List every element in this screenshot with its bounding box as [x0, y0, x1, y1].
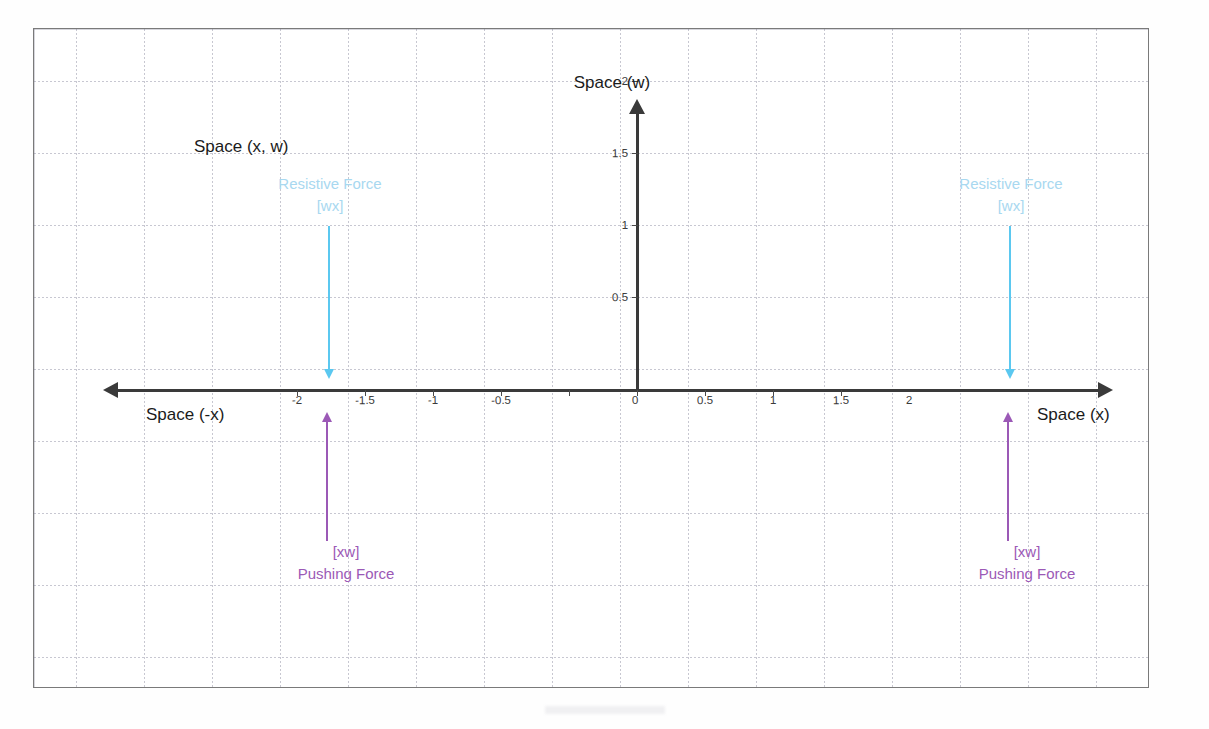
gridline-vertical: [212, 29, 213, 687]
gridline-vertical: [1096, 29, 1097, 687]
pushing-force-arrowhead-left: [322, 412, 332, 422]
chart-frame: -2 -1.5 -1 -0.5 0 0.5 1 1.5 2 0.5 1 1.5 …: [33, 28, 1149, 688]
pushing-force-arrow-right: [1007, 421, 1009, 541]
gridline-vertical: [484, 29, 485, 687]
resistive-force-label-line1: Resistive Force: [278, 173, 381, 195]
pushing-force-arrowhead-right: [1003, 412, 1013, 422]
gridline-horizontal: [34, 513, 1148, 514]
pushing-force-label-left: [xw] Pushing Force: [298, 541, 395, 585]
gridline-horizontal: [34, 369, 1148, 370]
gridline-horizontal: [34, 297, 1148, 298]
x-axis-arrow-left: [103, 382, 118, 398]
resistive-force-arrowhead-left: [324, 369, 334, 379]
gridline-vertical: [280, 29, 281, 687]
y-tick-mark: [632, 297, 638, 298]
gridline-horizontal: [34, 441, 1148, 442]
y-tick-mark: [632, 153, 638, 154]
resistive-force-arrowhead-right: [1005, 369, 1015, 379]
gridline-vertical: [144, 29, 145, 687]
x-axis-title-positive: Space (x): [1037, 405, 1110, 425]
pushing-force-label-right: [xw] Pushing Force: [979, 541, 1076, 585]
resistive-force-label-line1: Resistive Force: [959, 173, 1062, 195]
gridline-vertical: [892, 29, 893, 687]
gridline-vertical: [824, 29, 825, 687]
gridline-vertical: [348, 29, 349, 687]
y-tick-label: 0.5: [612, 291, 628, 303]
grid-background: [34, 29, 1148, 687]
x-tick-label: 1.5: [833, 394, 849, 406]
gridline-vertical: [688, 29, 689, 687]
resistive-force-label-line2: [wx]: [278, 195, 381, 217]
x-tick-label: 0: [632, 394, 639, 406]
resistive-force-arrow-right: [1009, 226, 1011, 371]
pushing-force-label-line2: Pushing Force: [298, 563, 395, 585]
gridline-vertical: [960, 29, 961, 687]
resistive-force-label-right: Resistive Force [wx]: [959, 173, 1062, 217]
quadrant-title: Space (x, w): [194, 137, 288, 157]
pushing-force-label-line1: [xw]: [298, 541, 395, 563]
gridline-vertical: [552, 29, 553, 687]
pushing-force-label-line2: Pushing Force: [979, 563, 1076, 585]
resistive-force-arrow-left: [328, 226, 330, 371]
x-tick-label: -1.5: [355, 394, 375, 406]
x-tick-label: 1: [770, 394, 777, 406]
x-axis-line: [116, 389, 1100, 392]
pushing-force-arrow-left: [326, 421, 328, 541]
scan-artifact: [545, 706, 665, 714]
x-tick-label: -0.5: [491, 394, 511, 406]
pushing-force-label-line1: [xw]: [979, 541, 1076, 563]
x-tick-label: -1: [428, 394, 438, 406]
y-tick-mark: [632, 225, 638, 226]
x-axis-arrow-right: [1098, 382, 1113, 398]
scanned-page: -2 -1.5 -1 -0.5 0 0.5 1 1.5 2 0.5 1 1.5 …: [0, 0, 1209, 729]
y-axis-line: [636, 113, 639, 391]
gridline-vertical: [756, 29, 757, 687]
resistive-force-label-line2: [wx]: [959, 195, 1062, 217]
y-axis-arrow-up: [629, 99, 645, 114]
gridline-vertical: [620, 29, 621, 687]
x-axis-title-negative: Space (-x): [146, 405, 224, 425]
resistive-force-label-left: Resistive Force [wx]: [278, 173, 381, 217]
y-axis-title: Space (w): [574, 73, 651, 93]
gridline-vertical: [416, 29, 417, 687]
x-tick-label: 2: [906, 394, 913, 406]
gridline-horizontal: [34, 657, 1148, 658]
x-tick-mark: [569, 390, 570, 396]
gridline-horizontal: [34, 225, 1148, 226]
gridline-vertical: [76, 29, 77, 687]
x-tick-label: -2: [292, 394, 302, 406]
x-tick-label: 0.5: [697, 394, 713, 406]
gridline-horizontal: [34, 585, 1148, 586]
y-tick-label: 1: [621, 219, 628, 231]
y-tick-label: 1.5: [612, 147, 628, 159]
gridline-vertical: [1028, 29, 1029, 687]
